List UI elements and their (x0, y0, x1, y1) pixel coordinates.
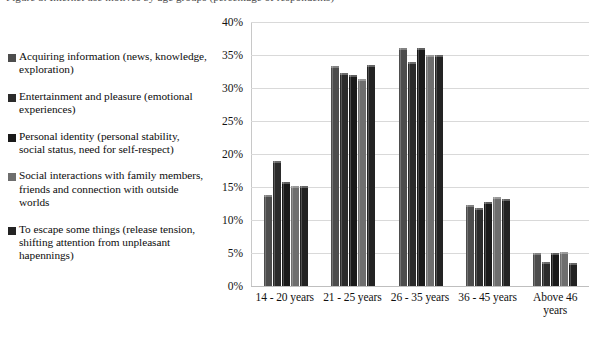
y-axis-tick-label: 25% (222, 115, 243, 127)
bar-sheen (292, 186, 293, 286)
figure-caption-strip: Figure 5. Internet use motives by age gr… (0, 0, 596, 11)
bar[interactable] (367, 65, 375, 286)
bar-sheen (467, 205, 468, 286)
bar-sheen (552, 253, 553, 286)
bar-sheen (283, 182, 284, 286)
legend-swatch-icon (8, 54, 16, 62)
bar[interactable] (551, 253, 559, 286)
bar-sheen (359, 79, 360, 286)
bar-group (387, 22, 454, 286)
chart-legend: Acquiring information (news, knowledge, … (8, 50, 208, 276)
legend-item[interactable]: To escape some things (release tension, … (8, 223, 208, 263)
bar[interactable] (560, 252, 568, 286)
bar[interactable] (358, 79, 366, 286)
bar[interactable] (569, 263, 577, 286)
bar[interactable] (331, 66, 339, 286)
bar[interactable] (417, 48, 425, 286)
bar[interactable] (264, 195, 272, 286)
x-axis-label: 36 - 45 years (454, 291, 522, 317)
bar[interactable] (349, 75, 357, 286)
chart-plot-area: 40%35%30%25%20%15%10%5%0% 14 - 20 years2… (205, 15, 590, 335)
bar-sheen (301, 186, 302, 286)
legend-item[interactable]: Entertainment and pleasure (emotional ex… (8, 90, 208, 117)
x-axis-label: 14 - 20 years (251, 291, 319, 317)
bar-sheen (418, 48, 419, 286)
legend-item-label: Acquiring information (news, knowledge, … (19, 50, 208, 77)
y-axis-tick-label: 0% (228, 280, 243, 292)
legend-swatch-icon (8, 94, 16, 102)
legend-item-label: Personal identity (personal stability, s… (19, 130, 208, 157)
y-axis-tick-label: 30% (222, 82, 243, 94)
bar-sheen (534, 253, 535, 286)
bar[interactable] (466, 205, 474, 286)
bar-group (454, 22, 521, 286)
bar[interactable] (533, 253, 541, 286)
bar-sheen (543, 262, 544, 286)
bar-sheen (494, 197, 495, 286)
bar-sheen (400, 48, 401, 286)
bar[interactable] (542, 262, 550, 286)
x-axis-label: Above 46 years (521, 291, 589, 317)
bar[interactable] (399, 48, 407, 286)
legend-item[interactable]: Personal identity (personal stability, s… (8, 130, 208, 157)
y-axis-tick-label: 40% (222, 16, 243, 28)
bar[interactable] (408, 62, 416, 286)
plot-canvas (251, 22, 589, 286)
bar-sheen (341, 73, 342, 286)
bar-sheen (436, 55, 437, 286)
bar-sheen (485, 202, 486, 286)
bar-group (522, 22, 589, 286)
legend-swatch-icon (8, 227, 16, 235)
legend-swatch-icon (8, 134, 16, 142)
y-axis-tick-label: 5% (228, 247, 243, 259)
legend-item[interactable]: Acquiring information (news, knowledge, … (8, 50, 208, 77)
figure-caption: Figure 5. Internet use motives by age gr… (6, 0, 334, 3)
legend-item[interactable]: Social interactions with family members,… (8, 169, 208, 209)
bar-groups (252, 22, 589, 286)
legend-item-label: Entertainment and pleasure (emotional ex… (19, 90, 208, 117)
x-axis-label: 26 - 35 years (386, 291, 454, 317)
bar-group (319, 22, 386, 286)
bar[interactable] (300, 186, 308, 286)
bar-sheen (476, 208, 477, 286)
gridline (251, 286, 589, 287)
figure-root: Figure 5. Internet use motives by age gr… (0, 0, 596, 350)
y-axis-tick-label: 20% (222, 148, 243, 160)
bar-sheen (350, 75, 351, 286)
x-axis-labels: 14 - 20 years21 - 25 years26 - 35 years3… (251, 291, 589, 317)
y-axis: 40%35%30%25%20%15%10%5%0% (205, 15, 247, 286)
bar[interactable] (493, 197, 501, 286)
legend-swatch-icon (8, 173, 16, 181)
bar-sheen (332, 66, 333, 286)
bar[interactable] (291, 186, 299, 286)
bar-sheen (409, 62, 410, 286)
bar-group (252, 22, 319, 286)
bar[interactable] (435, 55, 443, 286)
legend-item-label: Social interactions with family members,… (19, 169, 208, 209)
bar[interactable] (273, 161, 281, 286)
y-axis-tick-label: 10% (222, 214, 243, 226)
y-axis-tick-label: 35% (222, 49, 243, 61)
bar-sheen (570, 263, 571, 286)
x-axis-label: 21 - 25 years (319, 291, 387, 317)
bar[interactable] (340, 73, 348, 286)
legend-item-label: To escape some things (release tension, … (19, 223, 208, 263)
bar-sheen (368, 65, 369, 286)
bar[interactable] (282, 182, 290, 286)
bar[interactable] (426, 55, 434, 286)
bar[interactable] (475, 208, 483, 286)
bar-sheen (427, 55, 428, 286)
bar-sheen (561, 252, 562, 286)
bar-sheen (274, 161, 275, 286)
bar-sheen (503, 199, 504, 286)
bar[interactable] (484, 202, 492, 286)
bar[interactable] (502, 199, 510, 286)
y-axis-tick-label: 15% (222, 181, 243, 193)
bar-sheen (265, 195, 266, 286)
